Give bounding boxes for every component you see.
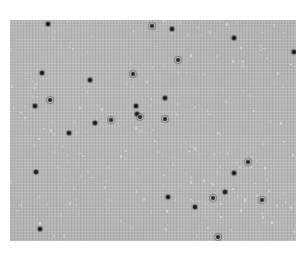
- speckle: [69, 202, 71, 205]
- speckle: [88, 22, 90, 23]
- particle: [163, 96, 167, 100]
- particle: [150, 24, 154, 28]
- speckle: [24, 117, 26, 119]
- speckle: [188, 151, 190, 152]
- speckle: [227, 152, 228, 155]
- speckle: [202, 191, 203, 193]
- particle: [134, 104, 138, 108]
- speckle: [190, 181, 192, 184]
- speckle: [277, 72, 279, 75]
- speckle: [157, 151, 159, 153]
- speckle: [75, 198, 76, 201]
- speckle: [121, 63, 122, 64]
- speckle: [198, 114, 199, 115]
- speckle: [74, 121, 75, 124]
- particle: [166, 195, 170, 199]
- speckle: [285, 201, 286, 204]
- speckle: [280, 122, 282, 125]
- speckle: [190, 199, 192, 200]
- speckle: [131, 227, 132, 229]
- particle: [232, 36, 236, 40]
- speckle: [230, 229, 232, 231]
- speckle: [11, 111, 12, 112]
- speckle: [226, 23, 228, 26]
- particle: [138, 115, 142, 119]
- speckle: [290, 64, 291, 65]
- speckle: [151, 98, 152, 100]
- speckle: [207, 227, 209, 229]
- particle: [34, 170, 38, 174]
- speckle: [79, 107, 81, 109]
- speckle: [54, 151, 56, 153]
- speckle: [187, 34, 189, 36]
- speckle: [67, 162, 69, 163]
- speckle: [261, 32, 263, 33]
- speckle: [273, 24, 275, 27]
- speckle: [152, 129, 153, 131]
- speckle: [59, 186, 60, 189]
- speckle: [262, 216, 264, 219]
- speckle: [51, 121, 53, 123]
- speckle: [190, 54, 192, 57]
- speckle: [262, 212, 263, 215]
- speckle: [217, 171, 218, 174]
- particle: [216, 235, 220, 239]
- speckle: [260, 44, 262, 47]
- speckle: [64, 179, 66, 180]
- particle: [93, 121, 97, 125]
- speckle: [220, 133, 221, 136]
- speckle: [250, 44, 251, 45]
- speckle: [172, 163, 174, 166]
- speckle: [163, 175, 165, 176]
- particle: [223, 190, 227, 194]
- speckle: [217, 132, 219, 134]
- speckle: [206, 217, 207, 218]
- speckle: [293, 230, 295, 233]
- speckle: [254, 183, 256, 184]
- speckle: [251, 156, 253, 157]
- speckle: [105, 180, 107, 182]
- speckle: [43, 128, 45, 129]
- speckle: [176, 113, 177, 116]
- speckle: [57, 166, 58, 168]
- speckle: [110, 179, 111, 181]
- speckle: [62, 145, 63, 148]
- speckle: [181, 146, 182, 148]
- speckle: [73, 187, 75, 190]
- speckle: [292, 154, 294, 156]
- speckle: [130, 62, 132, 65]
- speckle: [32, 87, 33, 89]
- speckle: [76, 204, 77, 206]
- speckle: [82, 155, 84, 157]
- speckle: [250, 167, 252, 168]
- speckle: [266, 58, 268, 59]
- speckle: [120, 118, 121, 119]
- particle: [163, 117, 167, 121]
- speckle: [253, 110, 255, 112]
- speckle: [271, 221, 273, 224]
- speckle: [260, 49, 262, 51]
- speckle: [140, 130, 142, 132]
- speckle: [268, 190, 270, 192]
- speckle: [185, 141, 186, 144]
- speckle: [276, 204, 278, 207]
- speckle: [105, 205, 106, 206]
- speckle: [10, 181, 12, 183]
- speckle: [130, 174, 131, 175]
- speckle: [126, 82, 127, 84]
- speckle: [216, 55, 218, 58]
- particle: [38, 227, 42, 231]
- speckle: [294, 65, 295, 67]
- speckle: [32, 95, 33, 98]
- particle: [88, 78, 92, 82]
- speckle: [240, 47, 242, 49]
- speckle: [151, 46, 152, 47]
- speckle: [146, 132, 147, 133]
- speckle: [26, 134, 27, 135]
- speckle: [125, 158, 127, 159]
- speckle: [48, 37, 49, 38]
- speckle: [86, 91, 88, 93]
- speckle: [167, 224, 168, 225]
- speckle: [125, 150, 127, 152]
- speckle: [143, 198, 145, 201]
